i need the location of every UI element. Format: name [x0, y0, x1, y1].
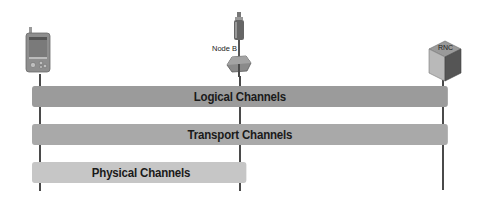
- physical-channels-label: Physical Channels: [92, 166, 190, 180]
- rnc-label: RNC: [438, 44, 453, 51]
- logical-channels-bar: Logical Channels: [32, 86, 448, 107]
- rnc-cube-icon: RNC: [427, 39, 463, 83]
- physical-channels-bar: Physical Channels: [32, 162, 246, 183]
- transport-channels-label: Transport Channels: [188, 128, 293, 142]
- logical-channels-label: Logical Channels: [194, 90, 286, 104]
- pda-phone-icon: [25, 27, 53, 75]
- transport-channels-bar: Transport Channels: [32, 124, 448, 145]
- nodeb-label: Node B: [212, 44, 237, 53]
